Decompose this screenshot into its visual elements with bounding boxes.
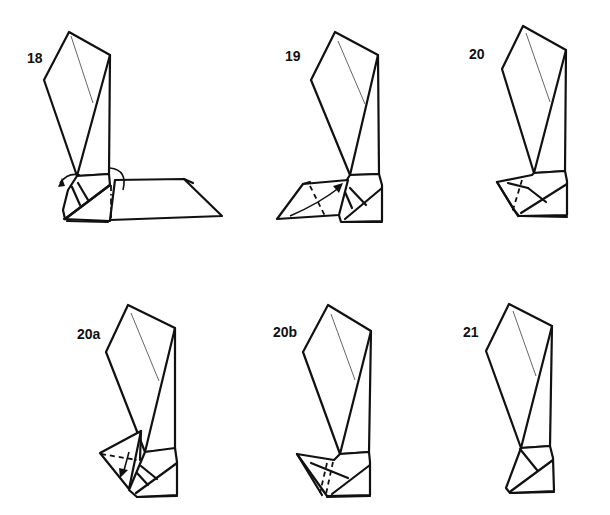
step-21-upper-flap	[486, 304, 552, 448]
step-19-upper-flap	[311, 32, 379, 175]
folding-diagram-canvas	[0, 0, 610, 515]
step-20a-figure	[100, 305, 177, 497]
step-18-figure	[44, 32, 222, 222]
step-20b-figure	[297, 305, 371, 497]
step-20-figure	[497, 26, 567, 217]
step-20a-upper-flap	[106, 305, 175, 452]
step-20b-upper-flap	[303, 305, 371, 454]
step-20-upper-flap	[502, 26, 566, 173]
step-19-figure	[277, 32, 382, 222]
step-21-figure	[486, 304, 554, 493]
